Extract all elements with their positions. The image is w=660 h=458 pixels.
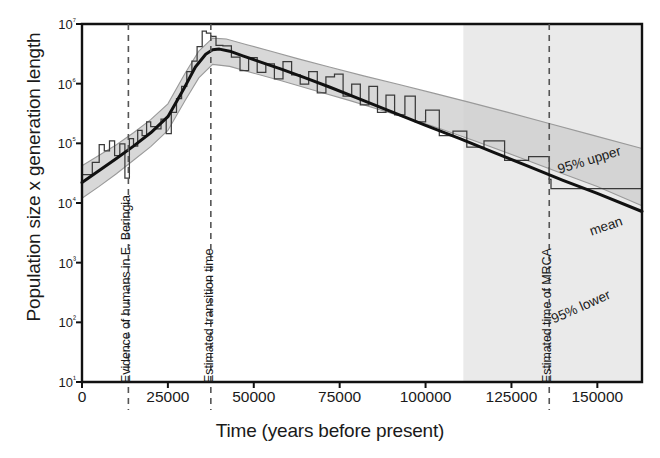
y-tick-label: 10³ [42, 254, 76, 270]
x-tick-label: 150000 [571, 388, 623, 406]
annotation-label-evidence-of-humans: Evidence of humans in E. Beringia [119, 195, 133, 383]
y-tick-label: 10⁵ [42, 135, 76, 151]
x-tick-label: 100000 [400, 388, 452, 406]
x-axis-title: Time (years before present) [0, 420, 660, 442]
y-tick-label: 10² [42, 314, 76, 330]
x-tick-label: 0 [78, 388, 87, 406]
y-tick-label: 10⁷ [42, 16, 76, 32]
y-tick-label: 10¹ [42, 374, 76, 390]
annotation-label-estimated-transition-time: Estimated transition time [202, 249, 216, 383]
x-tick-label: 75000 [318, 388, 361, 406]
y-tick-label: 10⁶ [42, 75, 76, 91]
x-tick-label: 125000 [486, 388, 538, 406]
x-tick-label: 25000 [146, 388, 189, 406]
y-tick-label: 10⁴ [42, 195, 76, 211]
x-tick-label: 50000 [232, 388, 275, 406]
